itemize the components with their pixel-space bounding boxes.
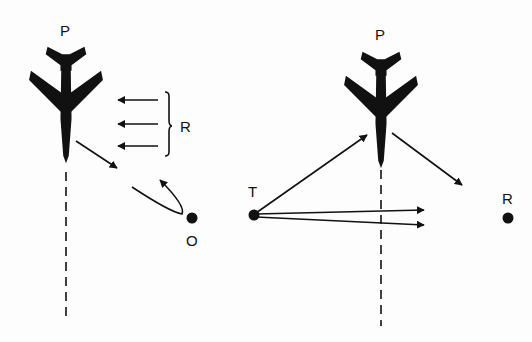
right-panel: P T R [248,26,514,326]
right-aircraft-icon [344,52,418,168]
diagram-canvas: P R O P T R [0,0,532,342]
receiver-label: R [502,190,513,207]
right-aircraft-label: P [375,26,385,43]
left-aircraft-label: P [60,22,70,39]
diagram-svg: P R O P T R [0,0,532,342]
object-label: O [186,232,198,249]
left-aircraft-icon [29,47,103,163]
aircraft-scatter-arrow [392,133,462,185]
incident-arrow [76,141,117,168]
transmitter-label: T [248,183,257,200]
transmit-to-aircraft-arrow [256,135,367,213]
left-panel: P R O [29,22,198,322]
reflection-label: R [180,118,191,135]
direct-path-arrow-2 [256,217,424,225]
return-loop-arrow [132,180,183,214]
receiver-point-icon [503,213,514,224]
reflection-bracket [165,92,172,156]
direct-path-arrow-1 [256,210,424,214]
object-point-icon [187,213,198,224]
